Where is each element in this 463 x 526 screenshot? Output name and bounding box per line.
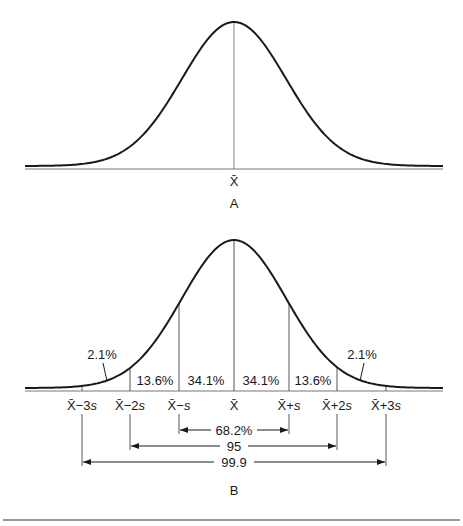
panel-b-label: B (230, 483, 239, 498)
region-plus1s-percent: 34.1% (243, 373, 280, 388)
sd-division-lines (82, 240, 386, 391)
region-minus2s-percent: 13.6% (137, 373, 174, 388)
region-minus1s-percent: 34.1% (188, 373, 225, 388)
panel-b: 2.1% 13.6% 34.1% 34.1% 13.6% 2.1% X̄−3sX… (25, 240, 443, 498)
range-95-label: 95 (227, 439, 241, 454)
x-label-plus3s: X̄+3s (371, 398, 402, 413)
range-68-label: 68.2% (216, 423, 253, 438)
left-tail-pointer (103, 363, 107, 381)
normal-distribution-diagram: X̄ A 2.1% 13.6% 34.1% 34.1% 13.6% 2.1% X… (0, 0, 463, 526)
range-95-arrow: 95 (131, 439, 336, 454)
panel-a-mean-label: X̄ (230, 174, 239, 189)
region-right-tail-percent: 2.1% (347, 347, 377, 362)
region-left-tail-percent: 2.1% (87, 347, 117, 362)
x-label-minus2s: X̄−2s (115, 398, 146, 413)
panel-a-label: A (230, 196, 239, 211)
range-99-9-arrow: 99.9 (83, 455, 385, 470)
x-label-minus3s: X̄−3s (67, 398, 98, 413)
x-axis-labels: X̄−3sX̄−2sX̄−sX̄X̄+sX̄+2sX̄+3s (67, 398, 402, 413)
x-label-minus1s: X̄−s (168, 398, 191, 413)
region-plus2s-percent: 13.6% (295, 373, 332, 388)
x-label-mean: X̄ (230, 398, 239, 413)
range-68-arrow: 68.2% (180, 423, 288, 438)
x-label-plus1s: X̄+s (278, 398, 301, 413)
panel-a: X̄ A (25, 22, 443, 211)
right-tail-pointer (360, 363, 364, 381)
x-label-plus2s: X̄+2s (322, 398, 353, 413)
range-99-9-label: 99.9 (221, 455, 246, 470)
